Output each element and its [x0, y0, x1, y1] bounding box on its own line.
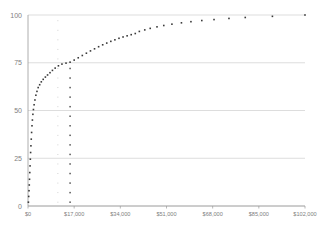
data-point: [52, 70, 54, 72]
reference-dot-1: [57, 125, 58, 126]
scatter-plot: 0255075100 $0$17,000$34,000$51,000$68,00…: [0, 0, 330, 230]
data-point: [86, 52, 88, 54]
reference-dot-2: [69, 173, 71, 175]
data-point: [114, 39, 116, 41]
data-point: [33, 109, 35, 111]
data-point: [171, 23, 173, 25]
data-point: [30, 152, 32, 154]
x-tick-label: $51,000: [156, 211, 176, 217]
data-point: [181, 22, 183, 24]
data-point: [130, 34, 132, 36]
data-point: [29, 165, 31, 167]
data-point: [228, 18, 230, 20]
y-tick-label: 50: [14, 107, 22, 114]
data-point: [98, 46, 100, 48]
data-point: [272, 16, 274, 18]
reference-dot-1: [57, 164, 58, 165]
data-point: [36, 91, 38, 93]
reference-dot-1: [57, 49, 58, 50]
reference-dot-1: [57, 202, 58, 203]
reference-lines-group: [57, 20, 70, 203]
data-point: [102, 44, 104, 46]
data-point: [69, 61, 71, 63]
data-point: [77, 57, 79, 59]
x-tick-label: $17,000: [64, 211, 84, 217]
x-tick-label: $102,000: [293, 211, 316, 217]
data-point: [31, 125, 33, 127]
reference-dot-2: [69, 115, 71, 117]
x-tick-label: $85,000: [249, 211, 269, 217]
data-point: [82, 55, 84, 57]
data-point: [122, 36, 124, 38]
reference-dot-1: [57, 39, 58, 40]
y-tick-labels-group: 0255075100: [10, 12, 22, 210]
x-tick-labels-group: $0$17,000$34,000$51,000$68,000$85,000$10…: [25, 211, 317, 217]
data-point: [163, 25, 165, 27]
data-point: [94, 48, 96, 50]
reference-dot-1: [57, 97, 58, 98]
data-point: [144, 29, 146, 31]
reference-dot-1: [57, 68, 58, 69]
y-tick-label: 0: [18, 203, 22, 210]
data-point: [28, 196, 30, 198]
data-point: [90, 50, 92, 52]
data-point: [45, 76, 47, 78]
reference-dot-1: [57, 106, 58, 107]
reference-dot-1: [57, 154, 58, 155]
reference-dot-2: [69, 87, 71, 89]
data-point: [110, 41, 112, 43]
data-point: [304, 14, 306, 16]
reference-dot-1: [57, 30, 58, 31]
reference-dot-1: [57, 78, 58, 79]
reference-dot-2: [69, 135, 71, 137]
reference-dot-1: [57, 183, 58, 184]
data-point: [31, 132, 33, 134]
data-point: [28, 184, 30, 186]
reference-dot-1: [57, 173, 58, 174]
data-point: [156, 26, 158, 28]
data-point: [28, 201, 30, 203]
data-point: [58, 65, 60, 67]
data-point: [126, 35, 128, 37]
reference-dot-2: [69, 144, 71, 146]
reference-dot-2: [69, 192, 71, 194]
reference-dot-2: [69, 201, 71, 203]
reference-dot-1: [57, 58, 58, 59]
data-point: [37, 87, 39, 89]
data-point: [73, 59, 75, 61]
reference-dot-1: [57, 144, 58, 145]
reference-dot-2: [69, 96, 71, 98]
data-point: [49, 72, 51, 74]
data-point: [47, 74, 49, 76]
data-point: [61, 63, 63, 65]
data-point: [30, 158, 32, 160]
y-tick-label: 100: [10, 12, 22, 19]
data-point: [30, 138, 32, 140]
data-point: [42, 79, 44, 81]
data-point: [32, 114, 34, 116]
data-point: [30, 145, 32, 147]
data-point: [34, 99, 36, 101]
reference-dot-2: [69, 125, 71, 127]
x-tick-label: $34,000: [110, 211, 130, 217]
data-point: [32, 119, 34, 121]
y-tick-label: 75: [14, 59, 22, 66]
data-point: [139, 31, 141, 33]
reference-dot-2: [69, 182, 71, 184]
data-point: [29, 178, 31, 180]
reference-dot-2: [69, 106, 71, 108]
data-point: [134, 33, 136, 35]
data-points-group: [28, 14, 306, 203]
data-point: [54, 67, 56, 69]
gridlines-group: [28, 15, 305, 206]
reference-dot-1: [57, 87, 58, 88]
data-point: [244, 17, 246, 19]
data-point: [149, 28, 151, 30]
data-point: [106, 42, 108, 44]
reference-dot-1: [57, 20, 58, 21]
y-tick-label: 25: [14, 155, 22, 162]
data-point: [28, 190, 30, 192]
data-point: [41, 81, 43, 83]
x-tick-label: $0: [25, 211, 31, 217]
data-point: [35, 94, 37, 96]
